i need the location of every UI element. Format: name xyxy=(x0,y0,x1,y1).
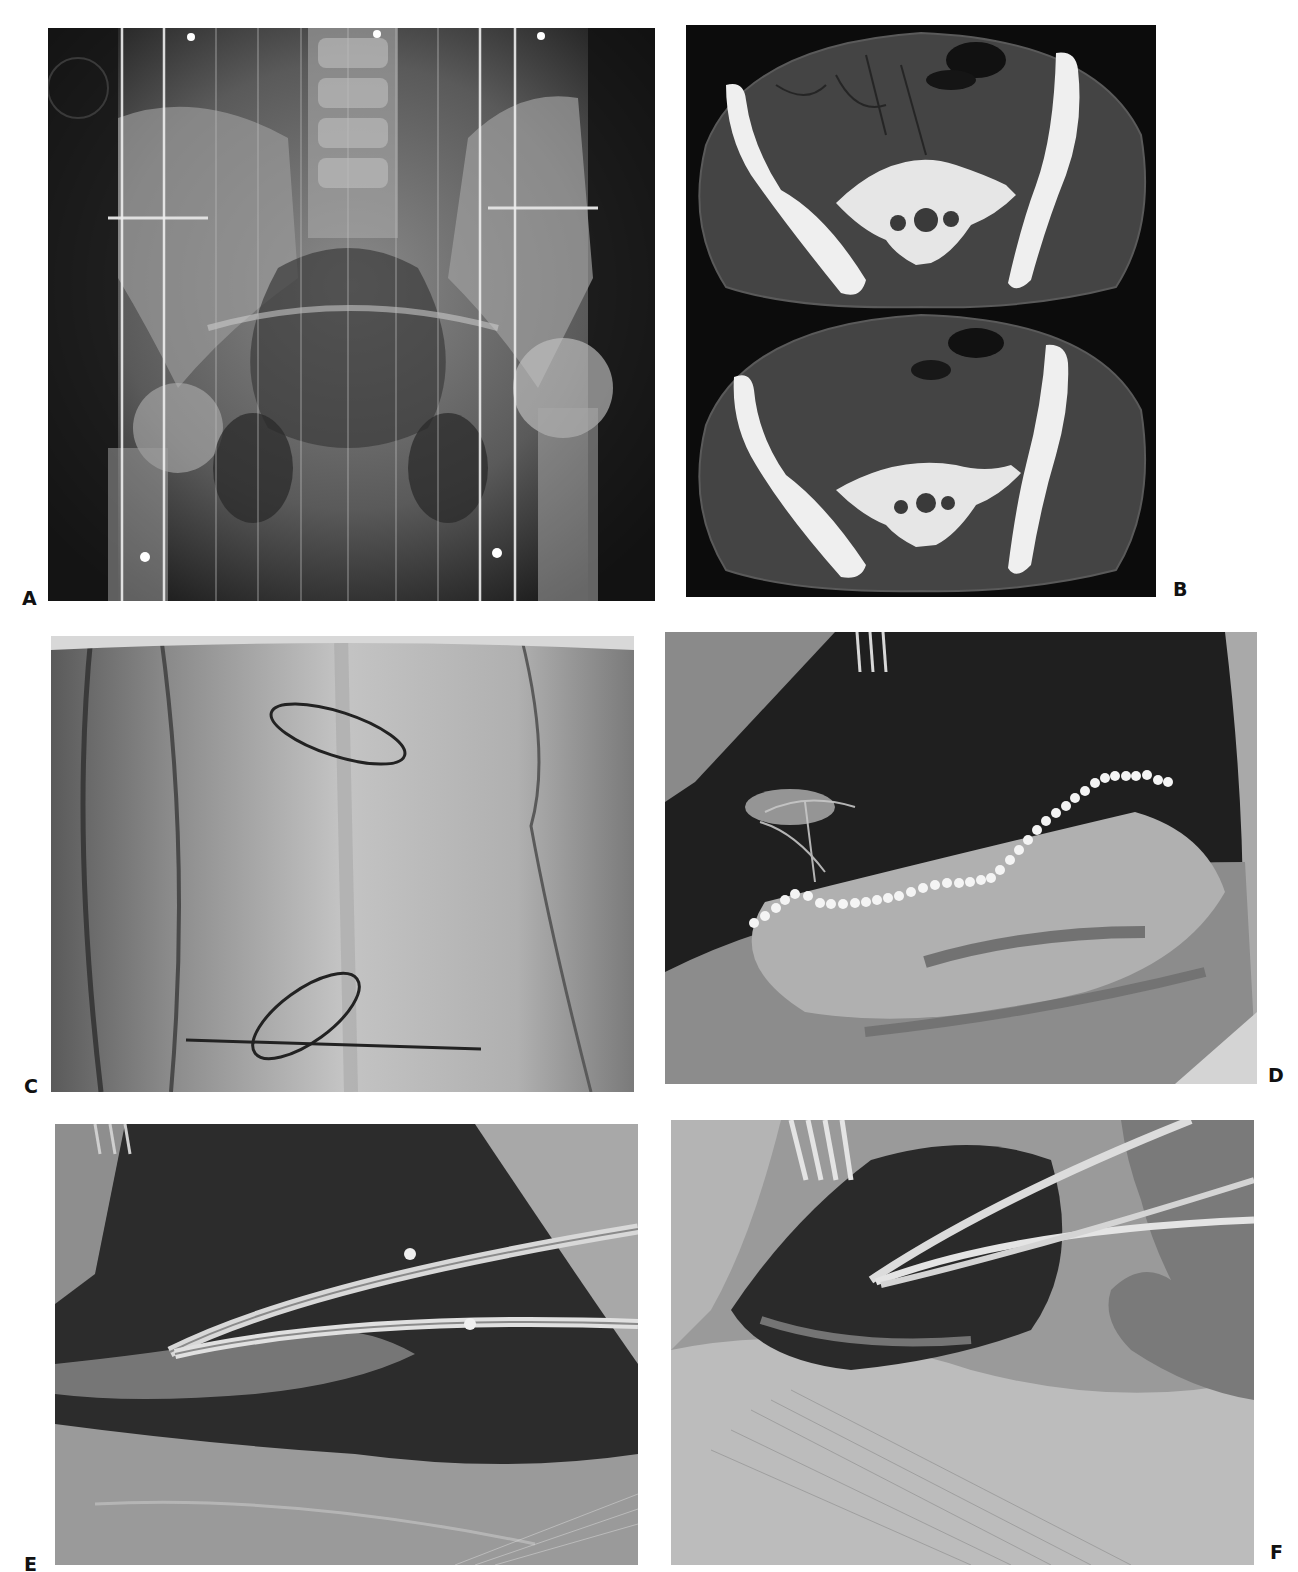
skin-photo xyxy=(51,636,634,1092)
panel-e-surgery xyxy=(55,1124,638,1565)
panel-d-surgery xyxy=(665,632,1257,1084)
panel-label-c: C xyxy=(24,1077,38,1096)
panel-c-skin xyxy=(51,636,634,1092)
panel-label-b: B xyxy=(1173,580,1187,599)
surgery-photo-d xyxy=(665,632,1257,1084)
panel-a-xray xyxy=(48,28,655,601)
ct-image xyxy=(686,25,1156,597)
ct-slice-lower xyxy=(699,315,1145,591)
panel-label-a: A xyxy=(22,589,37,608)
panel-label-d: D xyxy=(1268,1066,1284,1085)
ct-slice-upper xyxy=(699,33,1145,307)
panel-b-ct xyxy=(686,25,1156,597)
panel-label-f: F xyxy=(1270,1543,1283,1562)
panel-label-e: E xyxy=(24,1555,37,1572)
xray-image xyxy=(48,28,655,601)
panel-f-surgery xyxy=(671,1120,1254,1565)
surgery-photo-f xyxy=(671,1120,1254,1565)
surgery-photo-e xyxy=(55,1124,638,1565)
